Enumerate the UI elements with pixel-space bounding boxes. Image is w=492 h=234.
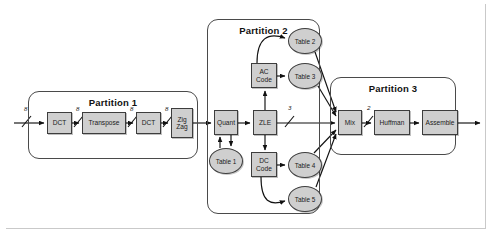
bus-label-zle-out: 3 xyxy=(288,104,291,111)
node-table-1[interactable]: Table 1 xyxy=(209,148,243,174)
node-ac-code[interactable]: AC Code xyxy=(251,63,277,88)
bus-label-mix-out: 2 xyxy=(367,104,370,111)
frame-bottom-rule xyxy=(6,228,486,229)
node-zigzag[interactable]: Zig Zag xyxy=(171,108,193,138)
node-table-2[interactable]: Table 2 xyxy=(288,28,322,54)
partition-3-title: Partition 3 xyxy=(330,83,456,94)
node-dct-2[interactable]: DCT xyxy=(136,112,161,134)
node-table-5[interactable]: Table 5 xyxy=(288,186,322,212)
bus-label-dct2-out: 8 xyxy=(165,105,168,112)
partition-1-title: Partition 1 xyxy=(28,97,198,108)
bus-label-transpose-out: 8 xyxy=(130,105,133,112)
node-zle[interactable]: ZLE xyxy=(253,110,277,135)
node-huffman[interactable]: Huffman xyxy=(374,110,410,135)
node-table-4[interactable]: Table 4 xyxy=(288,152,322,178)
node-dct-1[interactable]: DCT xyxy=(47,112,72,134)
node-assemble[interactable]: Assemble xyxy=(422,110,458,135)
bus-label-input: 8 xyxy=(24,105,27,112)
node-quant[interactable]: Quant xyxy=(214,110,238,135)
frame-right-rule xyxy=(485,4,486,229)
node-dc-code[interactable]: DC Code xyxy=(251,152,277,177)
bus-label-dct1-out: 8 xyxy=(76,105,79,112)
node-transpose[interactable]: Transpose xyxy=(82,112,126,134)
node-table-3[interactable]: Table 3 xyxy=(288,63,322,89)
diagram-canvas: Partition 1 Partition 2 Partition 3 DCT … xyxy=(0,0,492,234)
node-mix[interactable]: Mix xyxy=(338,110,362,135)
